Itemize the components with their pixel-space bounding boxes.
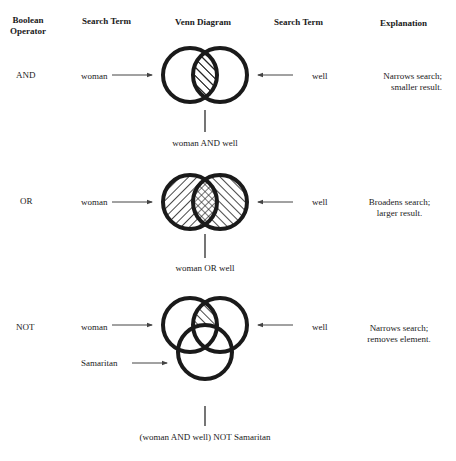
venn-not <box>112 290 293 426</box>
venn-and <box>112 40 293 132</box>
venn-or <box>112 170 293 258</box>
venn-diagrams <box>0 0 456 461</box>
